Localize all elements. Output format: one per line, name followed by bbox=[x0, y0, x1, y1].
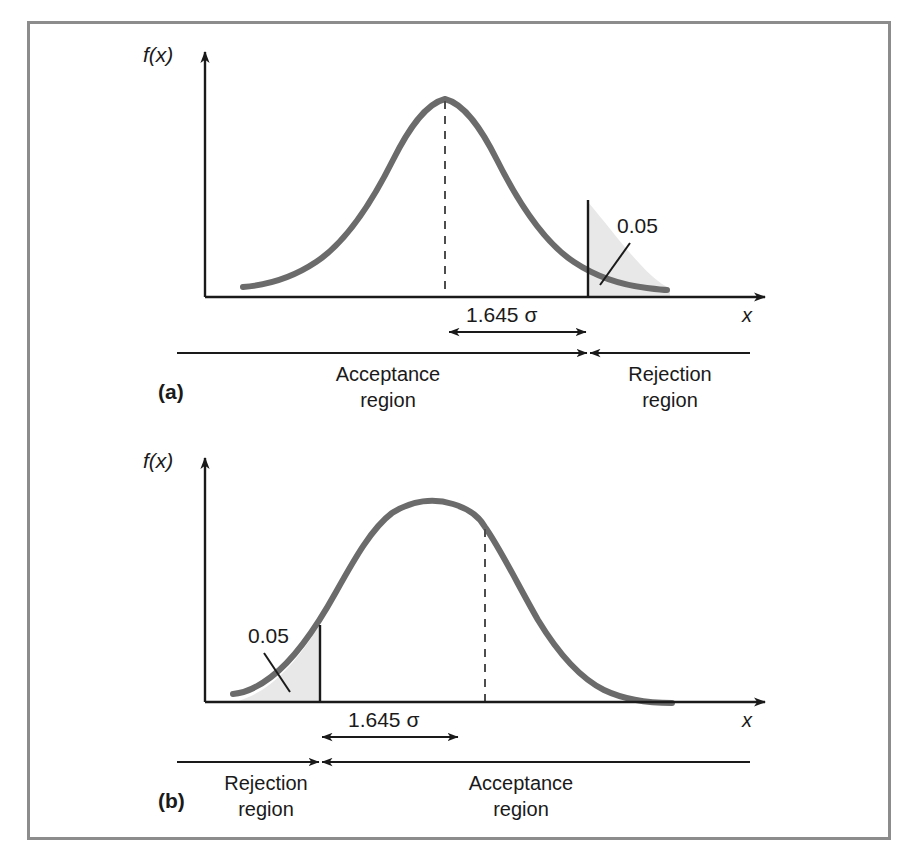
panel-b-rejection-label-line1: Rejection bbox=[224, 772, 307, 794]
panel-a-rejection-label-line1: Rejection bbox=[628, 363, 711, 385]
panel-a-acceptance-label-line2: region bbox=[360, 389, 416, 411]
panel-a-tail-probability-label: 0.05 bbox=[617, 214, 658, 237]
panel-b-acceptance-label-line1: Acceptance bbox=[469, 772, 574, 794]
panel-a-distance-label: 1.645 σ bbox=[466, 303, 537, 326]
panel-b-letter-label: (b) bbox=[158, 789, 185, 812]
figure-border bbox=[29, 23, 890, 839]
panel-b-acceptance-label-line2: region bbox=[493, 798, 549, 820]
panel-b-tail-probability-label: 0.05 bbox=[248, 624, 289, 647]
statistics-figure: f(x) x 0.05 1.645 σ Acceptance region Re… bbox=[0, 0, 908, 862]
panel-b-distance-label: 1.645 σ bbox=[348, 708, 419, 731]
panel-a-x-axis-label: x bbox=[741, 304, 753, 326]
panel-b-x-axis-label: x bbox=[741, 709, 753, 731]
panel-a-acceptance-label-line1: Acceptance bbox=[336, 363, 441, 385]
panel-b-y-axis-label: f(x) bbox=[143, 449, 173, 472]
panel-a-letter-label: (a) bbox=[158, 380, 184, 403]
panel-a-rejection-label-line2: region bbox=[642, 389, 698, 411]
panel-a-y-axis-label: f(x) bbox=[143, 43, 173, 66]
figure-container: f(x) x 0.05 1.645 σ Acceptance region Re… bbox=[0, 0, 908, 862]
panel-b-rejection-label-line2: region bbox=[238, 798, 294, 820]
